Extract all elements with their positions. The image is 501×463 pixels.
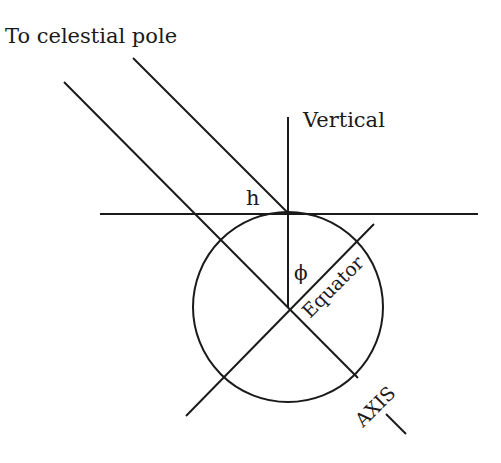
h-label: h bbox=[246, 186, 260, 210]
equator-line bbox=[186, 224, 374, 416]
axis-tail bbox=[386, 414, 406, 434]
axis-label: AXIS bbox=[350, 381, 400, 431]
title-label: To celestial pole bbox=[5, 24, 177, 48]
celestial-diagram: To celestial pole Vertical h ϕ Equator A… bbox=[0, 0, 501, 463]
diagram-svg: To celestial pole Vertical h ϕ Equator A… bbox=[0, 0, 501, 463]
pole-sightline bbox=[133, 58, 288, 213]
equator-label: Equator bbox=[297, 251, 368, 322]
phi-label: ϕ bbox=[294, 261, 308, 285]
vertical-label: Vertical bbox=[302, 108, 385, 132]
